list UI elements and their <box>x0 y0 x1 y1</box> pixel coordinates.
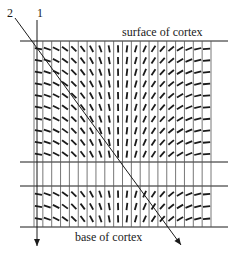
orientation-bar <box>194 206 201 208</box>
orientation-bar <box>143 216 146 223</box>
orientation-bar <box>53 129 59 132</box>
orientation-bar <box>71 204 76 209</box>
orientation-bar <box>109 139 110 146</box>
orientation-bar <box>168 82 174 87</box>
orientation-bar <box>194 83 201 85</box>
orientation-bar <box>35 72 42 73</box>
orientation-bar <box>177 141 183 145</box>
orientation-bar <box>152 46 156 52</box>
orientation-bar <box>135 139 137 146</box>
orientation-bar <box>160 46 165 51</box>
orientation-bar <box>99 151 101 158</box>
orientation-bar <box>81 204 85 210</box>
orientation-bar <box>99 139 101 146</box>
orientation-bar <box>99 69 101 76</box>
orientation-bar <box>152 116 156 122</box>
orientation-bar <box>168 140 174 145</box>
orientation-bar <box>35 194 42 195</box>
orientation-bar <box>194 71 201 73</box>
orientation-bar <box>62 152 68 156</box>
orientation-bar <box>135 116 137 123</box>
orientation-bar <box>186 217 193 220</box>
orientation-bar <box>135 215 137 222</box>
orientation-bar <box>186 71 193 74</box>
surface-of-cortex-label: surface of cortex <box>122 25 203 39</box>
orientation-bar <box>177 152 183 156</box>
orientation-bar <box>127 45 128 52</box>
orientation-bar <box>44 205 51 207</box>
orientation-bar <box>194 130 201 132</box>
orientation-bar <box>35 218 42 219</box>
orientation-bar <box>135 80 137 87</box>
orientation-bar <box>203 60 210 61</box>
orientation-bar <box>186 153 193 156</box>
orientation-bar <box>127 115 128 122</box>
orientation-bar <box>143 203 146 210</box>
orientation-bar <box>44 95 51 97</box>
orientation-bar <box>160 70 165 75</box>
orientation-bar <box>127 203 128 210</box>
orientation-bar <box>143 139 146 146</box>
orientation-bar <box>53 82 59 85</box>
orientation-bar <box>53 94 59 97</box>
orientation-bar <box>90 69 93 75</box>
orientation-bar <box>194 218 201 220</box>
orientation-bar <box>194 118 201 120</box>
orientation-bar <box>152 93 156 99</box>
orientation-bar <box>44 141 51 143</box>
orientation-bar <box>71 70 76 75</box>
orientation-bar <box>143 57 146 64</box>
orientation-bar <box>152 216 156 222</box>
orientation-bar <box>81 151 85 157</box>
orientation-bar <box>62 140 68 144</box>
orientation-bar <box>160 116 165 121</box>
orientation-bar <box>143 127 146 134</box>
orientation-bar <box>177 59 183 63</box>
orientation-bar <box>90 57 93 63</box>
orientation-bar <box>135 191 137 198</box>
horizontal-boundary-lines <box>20 41 228 227</box>
orientation-bar <box>62 70 68 74</box>
orientation-bar <box>35 130 42 131</box>
orientation-bar <box>90 92 93 98</box>
orientation-bar <box>71 81 76 86</box>
orientation-bar <box>203 119 210 120</box>
orientation-bar <box>186 94 193 97</box>
orientation-bar <box>203 72 210 73</box>
orientation-bar <box>81 216 85 222</box>
orientation-bar <box>177 94 183 98</box>
orientation-bar <box>53 117 59 120</box>
orientation-bar <box>203 219 210 220</box>
orientation-bar <box>127 80 128 87</box>
orientation-bar <box>194 153 201 155</box>
orientation-bar <box>62 47 68 51</box>
orientation-bar <box>109 203 110 210</box>
orientation-bar <box>35 107 42 108</box>
orientation-bar <box>81 46 85 52</box>
orientation-bar <box>35 118 42 119</box>
orientation-bar <box>90 46 93 52</box>
orientation-bar <box>127 191 128 198</box>
orientation-bar <box>109 104 110 111</box>
orientation-bar <box>99 203 101 210</box>
orientation-bar <box>35 83 42 84</box>
orientation-bar <box>35 154 42 155</box>
orientation-bar <box>109 215 110 222</box>
orientation-bar <box>109 69 110 76</box>
orientation-bar <box>127 104 128 111</box>
orientation-bar <box>168 58 174 63</box>
orientation-bar <box>186 141 193 144</box>
orientation-bar <box>143 92 146 99</box>
arrowhead-icon <box>34 239 40 246</box>
orientation-bar <box>90 104 93 110</box>
orientation-bar <box>81 140 85 146</box>
orientation-bar <box>152 58 156 64</box>
orientation-bar <box>99 104 101 111</box>
orientation-bar <box>44 153 51 155</box>
orientation-bar <box>194 142 201 144</box>
orientation-bar <box>203 142 210 143</box>
orientation-bar <box>90 151 93 157</box>
orientation-bar <box>168 217 174 222</box>
orientation-bar <box>135 203 137 210</box>
orientation-bar <box>186 106 193 109</box>
